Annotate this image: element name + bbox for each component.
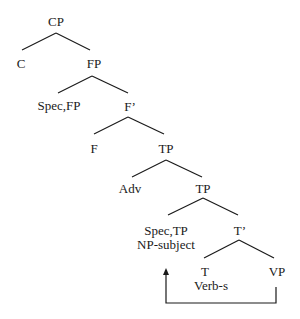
branch-tp-adv [132,160,166,177]
node-cp: CP [48,15,64,29]
branch-tp-tbar [203,198,238,215]
node-tp-inner: TP [195,182,210,196]
node-t: T [201,265,209,279]
arrowhead-icon [163,268,169,275]
tree-lines [0,0,300,319]
node-t-bar: T’ [234,224,246,238]
branch-fbar-f [94,117,128,134]
branch-cp-c [22,33,56,50]
branch-cp-fp [56,33,90,50]
node-tp: TP [158,142,173,156]
node-verb-s: Verb-s [194,279,228,293]
node-f: F [90,142,97,156]
node-vp: VP [269,265,286,279]
branch-tp-tp [166,160,202,177]
branch-fbar-tp [128,117,164,134]
node-c: C [17,57,26,71]
node-f-bar: F’ [124,100,136,114]
node-adv: Adv [119,182,141,196]
node-np-subject: NP-subject [137,238,195,252]
node-spec-tp: Spec,TP [144,224,188,238]
branch-tbar-vp [239,240,274,258]
node-spec-fp: Spec,FP [38,99,81,113]
branch-fp-spec [58,76,92,93]
branch-tbar-t [204,240,239,258]
node-fp: FP [87,57,101,71]
branch-fp-fbar [92,76,128,93]
branch-tp-spec [168,198,203,215]
